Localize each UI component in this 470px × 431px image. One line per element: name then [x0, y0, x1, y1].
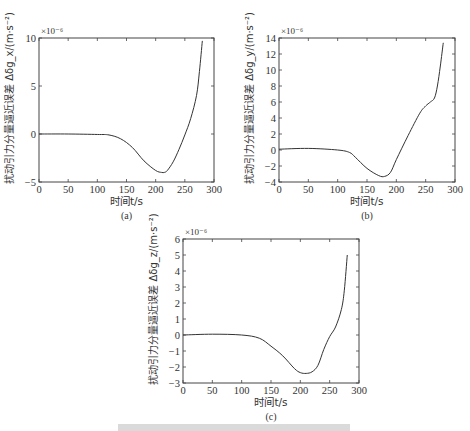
- x-tick-label: 0: [276, 184, 281, 195]
- y-tick-label: −5: [25, 177, 36, 188]
- y-tick-label: 6: [271, 97, 276, 108]
- x-tick-label: 50: [207, 385, 218, 396]
- x-tick-label: 300: [206, 184, 222, 195]
- y-tick-label: 0: [271, 145, 276, 156]
- x-tick-label: 250: [418, 184, 434, 195]
- y-tick-label: 0: [175, 330, 180, 341]
- chart-panel-c: 050100150200250300−3−2−10123456×10⁻⁶时间t/…: [147, 213, 367, 423]
- figure-caption-cutoff: [118, 424, 350, 431]
- y-tick-label: −2: [265, 161, 276, 172]
- y-tick-label: 2: [271, 129, 276, 140]
- y-tick-label: 14: [266, 33, 277, 44]
- y-tick-label: −4: [265, 177, 277, 188]
- y-tick-label: 10: [26, 33, 37, 44]
- panel-label: (a): [121, 210, 132, 222]
- y-tick-label: 2: [175, 298, 180, 309]
- y-axis-label: 扰动引力分量逼近误差 Δδg_z/(m·s⁻²): [147, 213, 160, 384]
- plot-frame: [279, 38, 455, 182]
- x-tick-label: 250: [322, 385, 338, 396]
- x-tick-label: 150: [359, 184, 375, 195]
- y-multiplier: ×10⁻⁶: [41, 26, 63, 36]
- figure-canvas: 050100150200250300−50510×10⁻⁶时间t/s(a)扰动引…: [0, 0, 470, 431]
- x-tick-label: 0: [180, 385, 185, 396]
- data-line: [39, 41, 202, 173]
- x-axis-label: 时间t/s: [350, 195, 383, 207]
- y-axis-label: 扰动引力分量逼近误差 Δδg_x/(m·s⁻²): [3, 12, 16, 184]
- plot-frame: [183, 239, 359, 383]
- y-multiplier: ×10⁻⁶: [185, 227, 207, 237]
- x-tick-label: 200: [148, 184, 164, 195]
- x-tick-label: 0: [36, 184, 41, 195]
- y-tick-label: 4: [175, 266, 181, 277]
- x-tick-label: 200: [388, 184, 404, 195]
- data-line: [279, 43, 443, 177]
- x-tick-label: 50: [63, 184, 74, 195]
- plot-frame: [39, 38, 214, 182]
- x-tick-label: 150: [119, 184, 135, 195]
- panel-label: (c): [265, 411, 276, 423]
- x-tick-label: 100: [89, 184, 105, 195]
- x-tick-label: 300: [351, 385, 367, 396]
- data-line: [183, 255, 347, 373]
- y-tick-label: 5: [31, 81, 36, 92]
- y-tick-label: 3: [175, 282, 180, 293]
- y-tick-label: −2: [169, 362, 180, 373]
- x-axis-label: 时间t/s: [110, 195, 143, 207]
- chart-panel-a: 050100150200250300−50510×10⁻⁶时间t/s(a)扰动引…: [3, 12, 222, 222]
- y-tick-label: 12: [266, 49, 277, 60]
- x-tick-label: 50: [303, 184, 314, 195]
- y-axis-label: 扰动引力分量逼近误差 Δδg_y/(m·s⁻²): [243, 12, 256, 184]
- y-tick-label: −1: [169, 346, 180, 357]
- x-tick-label: 100: [330, 184, 346, 195]
- y-tick-label: 6: [175, 234, 180, 245]
- y-tick-label: 8: [271, 81, 276, 92]
- y-tick-label: 0: [31, 129, 36, 140]
- y-tick-label: 10: [266, 65, 277, 76]
- panel-label: (b): [361, 210, 373, 222]
- y-tick-label: −3: [169, 378, 180, 389]
- y-multiplier: ×10⁻⁶: [281, 26, 303, 36]
- x-tick-label: 250: [177, 184, 193, 195]
- x-tick-label: 150: [263, 385, 279, 396]
- y-tick-label: 1: [175, 314, 180, 325]
- y-tick-label: 5: [175, 250, 180, 261]
- chart-panel-b: 050100150200250300−4−202468101214×10⁻⁶时间…: [243, 12, 463, 222]
- x-tick-label: 100: [234, 385, 250, 396]
- x-tick-label: 200: [292, 385, 308, 396]
- x-axis-label: 时间t/s: [254, 396, 287, 408]
- y-tick-label: 4: [271, 113, 277, 124]
- x-tick-label: 300: [447, 184, 463, 195]
